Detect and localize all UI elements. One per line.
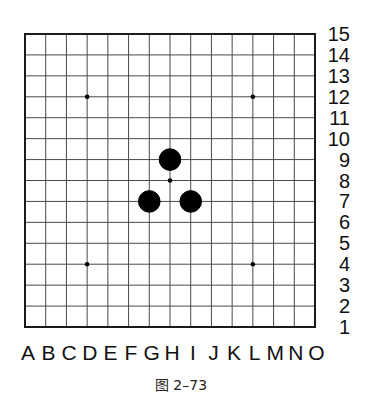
row-label: 11 [320,108,350,128]
row-label: 9 [320,150,350,170]
row-label: 14 [320,45,350,65]
column-label: K [224,341,244,365]
row-label: 5 [320,233,350,253]
column-label: A [18,341,38,365]
column-label: G [142,341,162,365]
row-label: 6 [320,212,350,232]
row-label: 4 [320,254,350,274]
column-label: O [306,341,326,365]
star-point [251,262,256,267]
column-label: D [80,341,100,365]
column-label: E [100,341,120,365]
column-label: C [59,341,79,365]
black-stone [159,149,181,171]
figure-caption: 图 2–73 [0,374,362,394]
row-label: 8 [320,171,350,191]
star-point [85,94,90,99]
row-label: 3 [320,275,350,295]
star-point [251,94,256,99]
black-stone [180,191,202,213]
column-label: B [39,341,59,365]
gomoku-diagram: ABCDEFGHIJKLMNO 151413121110987654321 图 … [0,0,368,407]
column-label: F [121,341,141,365]
column-label: J [203,341,223,365]
column-label: M [265,341,285,365]
row-label: 15 [320,24,350,44]
row-label: 7 [320,191,350,211]
column-label: H [162,341,182,365]
star-point [168,178,173,183]
row-label: 2 [320,296,350,316]
row-label: 1 [320,317,350,337]
column-label: I [183,341,203,365]
row-label: 13 [320,66,350,86]
star-point [85,262,90,267]
black-stone [138,191,160,213]
row-label: 12 [320,87,350,107]
column-label: L [245,341,265,365]
column-label: N [286,341,306,365]
row-label: 10 [320,129,350,149]
